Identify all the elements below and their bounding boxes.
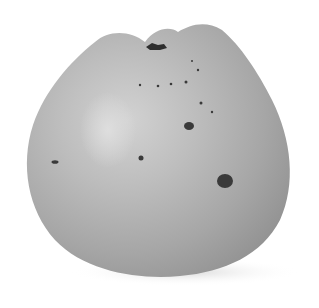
illustration-canvas (0, 0, 319, 308)
apple-body (27, 24, 290, 277)
apple-illustration (0, 0, 319, 308)
apple-highlight (80, 92, 136, 168)
